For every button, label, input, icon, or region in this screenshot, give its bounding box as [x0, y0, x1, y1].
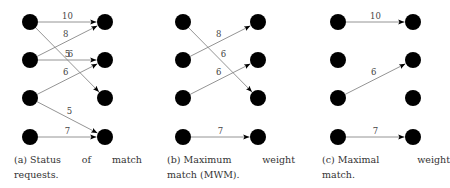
node-b-right-2 [250, 90, 266, 106]
caption-tag: (b) [167, 154, 181, 165]
edge-weight-label: 7 [218, 126, 223, 136]
edge-weight-label: 5 [67, 106, 72, 116]
edge-weight-label: 7 [373, 126, 378, 136]
node-c-left-3 [330, 129, 346, 145]
edge-weight-label: 7 [65, 126, 70, 136]
node-b-left-3 [175, 129, 191, 145]
node-b-right-1 [250, 52, 266, 68]
edge-weight-label: 10 [62, 11, 73, 21]
edge-weight-label: 6 [221, 49, 226, 59]
caption-text: Maximum weight match (MWM). [167, 154, 295, 180]
node-c-right-0 [405, 14, 421, 30]
caption-tag: (c) [322, 154, 335, 165]
edge-weight-label: 6 [216, 67, 221, 77]
node-c-right-1 [405, 52, 421, 68]
bipartite-match-figure: 1086565786671067 [0, 0, 446, 150]
edge-weight-label: 10 [370, 11, 381, 21]
caption-tag: (a) [14, 154, 27, 165]
node-a-left-3 [22, 129, 38, 145]
node-c-left-1 [330, 52, 346, 68]
node-a-right-3 [97, 129, 113, 145]
edge-weight-label: 6 [63, 67, 68, 77]
node-a-right-0 [97, 14, 113, 30]
node-c-right-2 [405, 90, 421, 106]
caption-a: (a)Status of match requests. [14, 152, 142, 182]
node-c-right-3 [405, 129, 421, 145]
caption-text: Status of match requests. [14, 154, 142, 180]
edge-weight-label: 8 [216, 29, 221, 39]
edge-weight-label: 8 [63, 29, 68, 39]
node-b-left-2 [175, 90, 191, 106]
node-b-left-0 [175, 14, 191, 30]
node-a-left-1 [22, 52, 38, 68]
caption-b: (b)Maximum weight match (MWM). [167, 152, 295, 182]
caption-text: Maximal weight match. [322, 154, 450, 180]
node-b-right-3 [250, 129, 266, 145]
caption-c: (c)Maximal weight match. [322, 152, 450, 182]
node-b-right-0 [250, 14, 266, 30]
node-a-left-0 [22, 14, 38, 30]
edge-weight-label: 6 [371, 67, 376, 77]
node-c-left-2 [330, 90, 346, 106]
edge-weight-label: 5 [65, 49, 70, 59]
node-c-left-0 [330, 14, 346, 30]
node-b-left-1 [175, 52, 191, 68]
node-a-right-1 [97, 52, 113, 68]
node-a-right-2 [97, 90, 113, 106]
node-a-left-2 [22, 90, 38, 106]
